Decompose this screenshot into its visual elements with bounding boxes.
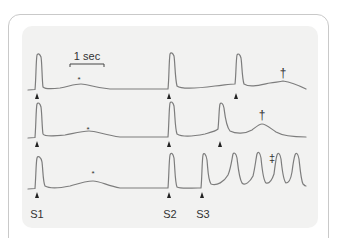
stimulus-label-s3: S3 bbox=[196, 208, 209, 220]
stimulus-arrow bbox=[167, 192, 171, 198]
dagger-marker: † bbox=[259, 108, 266, 122]
stimulus-labels: S1 S2 S3 bbox=[30, 208, 209, 220]
stimulus-arrow bbox=[35, 93, 39, 99]
asterisk-marker: * bbox=[91, 169, 94, 178]
stimulus-arrow bbox=[35, 141, 39, 147]
stimulus-arrow bbox=[234, 93, 238, 99]
trace-2: * † bbox=[28, 102, 306, 138]
stimulus-arrow bbox=[218, 141, 222, 147]
stimulus-arrow bbox=[35, 192, 39, 198]
trace-1: * † bbox=[28, 53, 306, 99]
stimulus-label-s2: S2 bbox=[163, 208, 176, 220]
scale-bar-label: 1 sec bbox=[74, 50, 101, 62]
dagger-marker: † bbox=[280, 66, 287, 80]
stimulus-arrow bbox=[167, 141, 171, 147]
trace-3: * ‡ bbox=[28, 141, 306, 198]
double-dagger-marker: ‡ bbox=[269, 152, 275, 164]
stimulus-arrow bbox=[200, 192, 204, 198]
asterisk-marker: * bbox=[86, 125, 89, 134]
stimulus-label-s1: S1 bbox=[30, 208, 43, 220]
action-potential-figure: 1 sec * † * † * ‡ S1 S2 S3 bbox=[0, 0, 339, 238]
asterisk-marker: * bbox=[77, 75, 80, 84]
stimulus-arrow bbox=[167, 93, 171, 99]
scale-bar: 1 sec bbox=[70, 50, 104, 67]
